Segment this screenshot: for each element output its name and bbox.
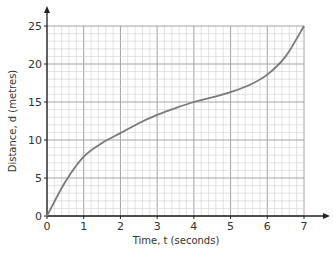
y-tick-labels: 0510152025 <box>28 20 47 223</box>
x-tick-label: 5 <box>227 220 234 233</box>
y-tick-label: 0 <box>35 210 42 223</box>
x-tick-label: 7 <box>301 220 308 233</box>
y-tick-label: 20 <box>28 58 42 71</box>
chart: 01234567 0510152025 Time, t (seconds) Di… <box>0 0 333 260</box>
x-tick-label: 2 <box>117 220 124 233</box>
x-tick-label: 3 <box>154 220 161 233</box>
x-axis-title: Time, t (seconds) <box>132 235 220 246</box>
x-tick-labels: 01234567 <box>44 216 308 233</box>
x-tick-label: 0 <box>44 220 51 233</box>
axes <box>44 6 330 219</box>
x-tick-label: 1 <box>80 220 87 233</box>
x-tick-label: 4 <box>190 220 197 233</box>
x-tick-label: 6 <box>264 220 271 233</box>
y-tick-label: 15 <box>28 96 42 109</box>
y-tick-label: 10 <box>28 134 42 147</box>
grid <box>47 26 304 216</box>
y-tick-label: 5 <box>35 172 42 185</box>
distance-curve <box>47 26 304 216</box>
y-axis-title: Distance, d (metres) <box>7 70 18 173</box>
y-tick-label: 25 <box>28 20 42 33</box>
